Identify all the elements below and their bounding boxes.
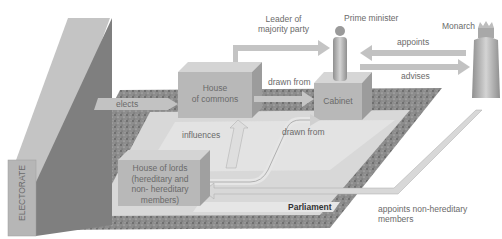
- house-of-lords-line1: House of lords: [120, 163, 200, 174]
- house-of-lords-line4: members): [120, 195, 200, 206]
- house-of-lords-line2: (hereditary and: [120, 174, 200, 185]
- appoints-non-hereditary-label: appoints non-hereditary members: [378, 204, 467, 224]
- appoints-label: appoints: [397, 37, 429, 47]
- appoints-arrow: [360, 45, 466, 61]
- advises-label: advises: [401, 71, 430, 81]
- drawn-from-commons-label: drawn from: [268, 77, 311, 87]
- prime-minister-figure: [333, 26, 347, 81]
- appoints-nh-line2: members: [378, 214, 467, 224]
- parliament-label: Parliament: [288, 202, 331, 212]
- drawn-from-lords-label: drawn from: [282, 127, 325, 137]
- house-of-lords-line3: non- hereditary: [120, 184, 200, 195]
- leader-arrow: [228, 40, 330, 64]
- leader-line2: majority party: [258, 24, 309, 34]
- house-of-lords-label: House of lords (hereditary and non- here…: [120, 163, 200, 205]
- leader-line1: Leader of: [258, 14, 309, 24]
- elects-label: elects: [116, 99, 138, 109]
- prime-minister-label: Prime minister: [344, 13, 398, 23]
- house-of-commons-line2: of commons: [180, 94, 250, 105]
- appoints-nh-line1: appoints non-hereditary: [378, 204, 467, 214]
- leader-of-majority-party-label: Leader of majority party: [258, 14, 309, 34]
- uk-government-diagram: ELECTORATE elects House of commons Leade…: [0, 0, 502, 239]
- cabinet-label: Cabinet: [314, 96, 362, 107]
- influences-label: influences: [182, 130, 220, 140]
- house-of-commons-label: House of commons: [180, 83, 250, 104]
- electorate-label: ELECTORATE: [17, 169, 27, 221]
- monarch-label: Monarch: [442, 21, 475, 31]
- house-of-commons-line1: House: [180, 83, 250, 94]
- monarch-figure: [472, 21, 500, 98]
